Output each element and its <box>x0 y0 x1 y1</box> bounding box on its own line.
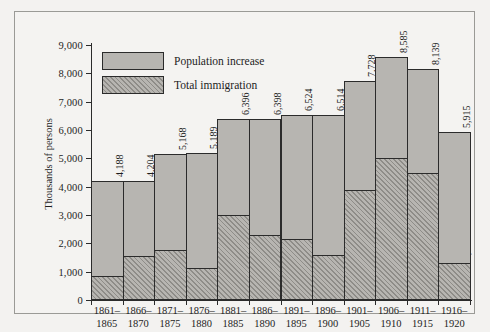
legend-swatch-total-immigration <box>102 76 164 94</box>
x-axis-category-line: 1886– <box>249 305 281 318</box>
bar[interactable] <box>249 119 282 300</box>
x-axis-category-line: 1865 <box>91 318 123 331</box>
x-axis-category-line: 1885 <box>217 318 249 331</box>
y-tick-label: 9,000 <box>58 40 83 51</box>
bar-immigration-segment[interactable] <box>281 239 314 300</box>
y-tick-label: 2,000 <box>58 238 83 249</box>
chart-legend: Population increase Total immigration <box>102 51 264 99</box>
legend-item-population-increase: Population increase <box>102 51 264 71</box>
x-axis-category-label: 1901–1905 <box>344 305 376 330</box>
x-axis-category-line: 1920 <box>438 318 470 331</box>
x-axis-category-line: 1881– <box>217 305 249 318</box>
bar[interactable] <box>344 81 377 300</box>
y-tick-mark <box>86 73 91 74</box>
y-axis-title: Thousands of persons <box>43 0 54 64</box>
x-axis-category-line: 1911– <box>407 305 439 318</box>
bar-total-value-label: 6,524 <box>303 89 314 112</box>
bar-immigration-segment[interactable] <box>312 255 345 300</box>
x-tick-mark <box>249 300 250 305</box>
x-axis-category-label: 1916–1920 <box>438 305 470 330</box>
bar-immigration-segment[interactable] <box>186 268 219 300</box>
bar-immigration-segment[interactable] <box>123 256 156 300</box>
bar-total-value-label: 6,398 <box>272 92 283 115</box>
x-tick-mark <box>123 300 124 305</box>
bar[interactable] <box>407 69 440 300</box>
x-tick-mark <box>438 300 439 305</box>
bar-total-value-label: 5,915 <box>461 106 472 129</box>
y-tick-label: 8,000 <box>58 68 83 79</box>
bar[interactable] <box>375 57 408 300</box>
bar-immigration-segment[interactable] <box>217 215 250 300</box>
y-tick-label: 3,000 <box>58 210 83 221</box>
x-axis-category-label: 1861–1865 <box>91 305 123 330</box>
x-axis-category-line: 1880 <box>186 318 218 331</box>
legend-label-total-immigration: Total immigration <box>174 79 257 91</box>
x-axis-category-line: 1870 <box>123 318 155 331</box>
y-axis-title-text: Thousands of persons <box>43 64 54 264</box>
x-tick-mark <box>375 300 376 305</box>
x-axis-category-line: 1895 <box>281 318 313 331</box>
bar-total-value-label: 8,139 <box>430 43 441 66</box>
x-axis-category-line: 1861– <box>91 305 123 318</box>
x-tick-mark <box>186 300 187 305</box>
x-axis-category-line: 1875 <box>154 318 186 331</box>
x-axis-category-line: 1876– <box>186 305 218 318</box>
bar[interactable] <box>154 154 187 300</box>
x-axis-category-line: 1896– <box>312 305 344 318</box>
y-tick-label: 6,000 <box>58 125 83 136</box>
x-axis-category-label: 1886–1890 <box>249 305 281 330</box>
x-axis-category-label: 1881–1885 <box>217 305 249 330</box>
bar[interactable] <box>91 181 124 300</box>
legend-item-total-immigration: Total immigration <box>102 75 264 95</box>
bar-immigration-segment[interactable] <box>407 173 440 300</box>
x-tick-mark <box>344 300 345 305</box>
x-axis-category-line: 1866– <box>123 305 155 318</box>
x-tick-mark <box>470 300 471 305</box>
y-tick-label: 4,000 <box>58 181 83 192</box>
x-axis-category-line: 1871– <box>154 305 186 318</box>
x-axis-category-label: 1871–1875 <box>154 305 186 330</box>
bar[interactable] <box>123 181 156 300</box>
bar-immigration-segment[interactable] <box>375 158 408 300</box>
bar-total-value-label: 4,188 <box>114 155 125 178</box>
y-tick-label: 5,000 <box>58 153 83 164</box>
x-axis-category-label: 1876–1880 <box>186 305 218 330</box>
bar[interactable] <box>217 119 250 300</box>
x-tick-mark <box>217 300 218 305</box>
bar[interactable] <box>438 132 471 300</box>
x-axis-category-line: 1891– <box>281 305 313 318</box>
y-tick-mark <box>86 130 91 131</box>
x-axis-category-line: 1890 <box>249 318 281 331</box>
bar-total-value-label: 5,168 <box>177 127 188 150</box>
legend-label-population-increase: Population increase <box>174 55 264 67</box>
bar[interactable] <box>186 153 219 300</box>
x-axis-category-line: 1905 <box>344 318 376 331</box>
x-axis-category-label: 1866–1870 <box>123 305 155 330</box>
bar[interactable] <box>281 115 314 300</box>
x-tick-mark <box>91 300 92 305</box>
x-tick-mark <box>407 300 408 305</box>
x-axis-category-line: 1910 <box>375 318 407 331</box>
x-axis-category-label: 1911–1915 <box>407 305 439 330</box>
x-tick-mark <box>154 300 155 305</box>
chart-frame: Thousands of persons 01,0002,0003,0004,0… <box>14 11 475 314</box>
x-axis-category-label: 1896–1900 <box>312 305 344 330</box>
x-axis-line <box>91 300 472 301</box>
bar-immigration-segment[interactable] <box>154 250 187 300</box>
x-axis-category-line: 1900 <box>312 318 344 331</box>
x-axis-category-line: 1901– <box>344 305 376 318</box>
figure: Thousands of persons 01,0002,0003,0004,0… <box>0 0 490 332</box>
bar-immigration-segment[interactable] <box>249 235 282 300</box>
x-tick-mark <box>281 300 282 305</box>
bar[interactable] <box>312 115 345 300</box>
y-tick-label: 1,000 <box>58 266 83 277</box>
x-tick-mark <box>312 300 313 305</box>
x-axis-category-line: 1915 <box>407 318 439 331</box>
bar-immigration-segment[interactable] <box>344 190 377 300</box>
y-tick-mark <box>86 158 91 159</box>
bar-immigration-segment[interactable] <box>91 276 124 300</box>
bar-immigration-segment[interactable] <box>438 263 471 300</box>
legend-swatch-population-increase <box>102 52 164 70</box>
x-axis-category-label: 1906–1910 <box>375 305 407 330</box>
y-tick-label: 0 <box>78 295 83 306</box>
